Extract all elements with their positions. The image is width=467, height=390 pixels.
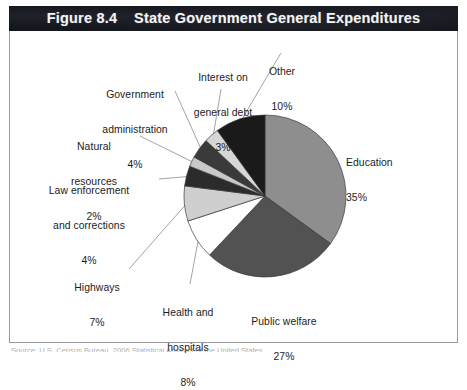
label-line: 4% bbox=[23, 255, 155, 267]
figure-title-bar: Figure 8.4 State Government General Expe… bbox=[9, 6, 458, 31]
label-line: general debt bbox=[180, 107, 266, 119]
label-line: 4% bbox=[80, 159, 190, 171]
slice-label-interest-on-general-debt: Interest on general debt 3% bbox=[180, 49, 266, 177]
label-line: Education bbox=[346, 157, 393, 169]
label-line: 35% bbox=[346, 192, 393, 204]
label-line: Other bbox=[255, 66, 309, 78]
figure-title: Figure 8.4 State Government General Expe… bbox=[9, 10, 458, 26]
slice-label-public-welfare: Public welfare 27% bbox=[224, 293, 344, 386]
chart-plot-area: Education 35% Public welfare 27% Health … bbox=[9, 31, 458, 343]
leader-line bbox=[190, 238, 199, 284]
label-line: 8% bbox=[139, 377, 237, 389]
label-line: 3% bbox=[180, 142, 266, 154]
label-line: Public welfare bbox=[224, 316, 344, 328]
source-note-clipped: Source: U.S. Census Bureau, 2006 Statist… bbox=[11, 347, 457, 352]
slice-label-health-and-hospitals: Health and hospitals 8% bbox=[139, 284, 237, 390]
slice-label-education: Education 35% bbox=[346, 134, 393, 227]
label-line: Health and bbox=[139, 307, 237, 319]
label-line: Interest on bbox=[180, 72, 266, 84]
label-line: administration bbox=[80, 124, 190, 136]
slice-label-government-administration: Government administration 4% bbox=[80, 66, 190, 194]
label-line: 10% bbox=[255, 101, 309, 113]
source-note-text: Source: U.S. Census Bureau, 2006 Statist… bbox=[11, 347, 263, 352]
slice-label-other: Other 10% bbox=[255, 43, 309, 136]
label-line: 2% bbox=[52, 211, 136, 223]
label-line: 7% bbox=[59, 317, 135, 329]
label-line: 27% bbox=[224, 351, 344, 363]
label-line: Government bbox=[80, 89, 190, 101]
